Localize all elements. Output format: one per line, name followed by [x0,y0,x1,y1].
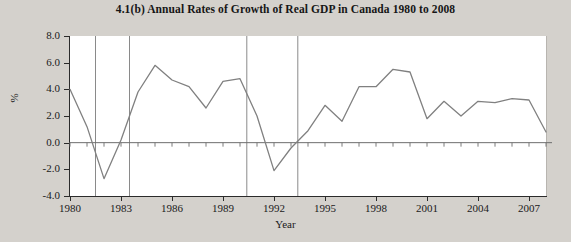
gdp-growth-line [70,65,546,178]
figure-gdp-growth-canada: 4.1(b) Annual Rates of Growth of Real GD… [0,0,571,242]
chart-overlay [0,0,571,242]
recession-marker-lines [96,36,298,196]
annual-tick-marks [70,143,546,147]
